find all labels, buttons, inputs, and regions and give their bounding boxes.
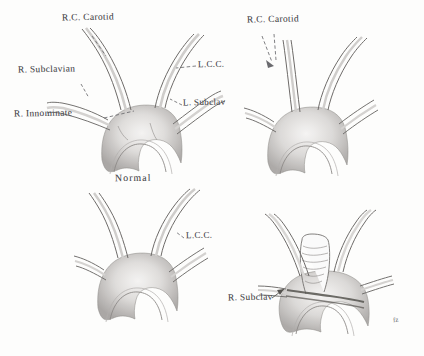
caption-normal: Normal [115,172,152,183]
panel-bottom-left [74,189,208,322]
leader-l-subclav [170,99,182,105]
label-r-subclavian-top-left: R. Subclavian [18,63,75,74]
leader-r-subclavian [81,84,89,98]
leader-rc-carotid-b [274,34,276,60]
leader-rc-carotid-a [262,36,272,62]
figure-plate: R.C. Carotid R. Subclavian R. Innominate… [0,0,424,356]
artist-signature: fz [393,316,399,325]
leader-lcc [176,66,196,68]
leader-lcc-bottom [176,232,184,238]
label-r-innominate-top-left: R. Innominate [14,107,72,118]
label-lcc-bottom-left: L.C.C. [186,230,213,241]
panel-top-right [244,34,378,176]
anatomy-drawing [0,0,424,356]
label-l-subclav-top-left: L. Subclav [183,97,226,108]
label-rc-carotid-top-left: R.C. Carotid [62,11,114,22]
label-rc-carotid-top-right: R.C. Carotid [247,13,299,24]
arrowhead-rc-carotid [266,60,274,68]
label-lcc-top-left: L.C.C. [198,59,225,70]
label-r-subclav-bottom-right: R. Subclav [228,292,273,303]
panel-bottom-right [258,210,394,336]
